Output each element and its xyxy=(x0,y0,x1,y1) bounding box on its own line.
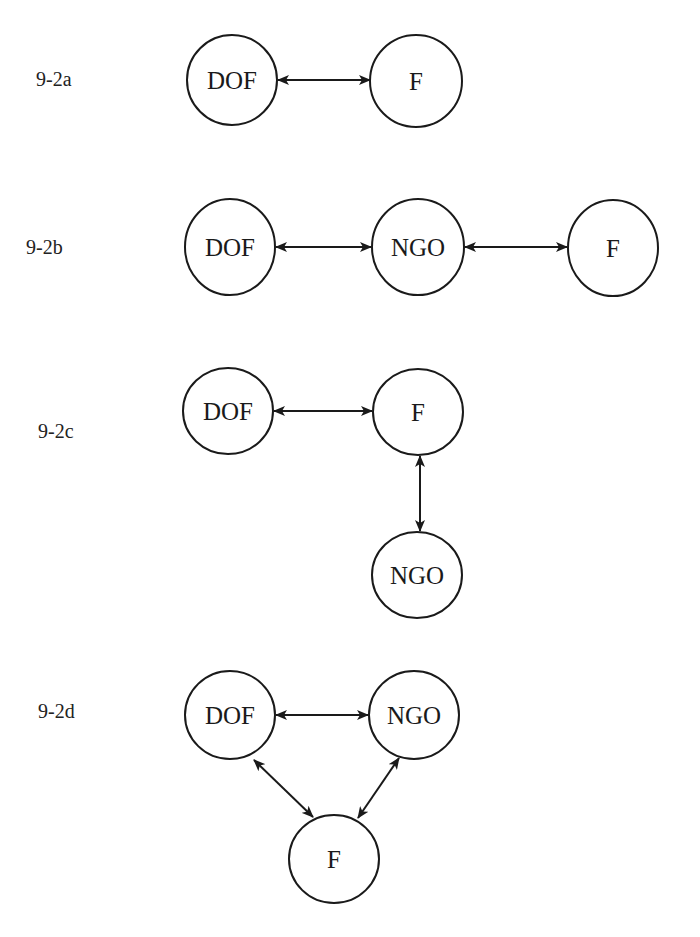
diagram-9-2a: DOFF xyxy=(187,35,462,127)
node-f: F xyxy=(568,200,658,296)
diagram-9-2d: DOFNGOF xyxy=(185,671,459,903)
node-ngo: NGO xyxy=(372,532,462,618)
node-label: DOF xyxy=(205,234,255,261)
node-label: NGO xyxy=(391,234,445,261)
node-dof: DOF xyxy=(185,671,275,759)
node-dof: DOF xyxy=(187,35,277,125)
node-label: NGO xyxy=(390,562,444,589)
edge-dof-f-arrow-icon xyxy=(254,760,313,817)
node-label: F xyxy=(409,68,423,95)
node-label: F xyxy=(606,235,620,262)
node-label: F xyxy=(411,399,425,426)
node-f: F xyxy=(370,35,462,127)
edge-ngo-f-arrow-icon xyxy=(358,758,399,818)
node-dof: DOF xyxy=(185,199,275,295)
node-f: F xyxy=(373,369,463,455)
node-ngo: NGO xyxy=(369,671,459,759)
node-label: DOF xyxy=(205,702,255,729)
node-dof: DOF xyxy=(183,368,273,454)
diagram-9-2b: DOFNGOF xyxy=(185,199,658,296)
diagram-canvas: DOFFDOFNGOFDOFFNGODOFNGOF xyxy=(0,0,700,937)
diagram-9-2c: DOFFNGO xyxy=(183,368,463,618)
node-label: F xyxy=(327,846,341,873)
node-label: NGO xyxy=(387,702,441,729)
node-ngo: NGO xyxy=(372,199,464,295)
node-f: F xyxy=(289,815,379,903)
node-label: DOF xyxy=(203,398,253,425)
node-label: DOF xyxy=(207,67,257,94)
